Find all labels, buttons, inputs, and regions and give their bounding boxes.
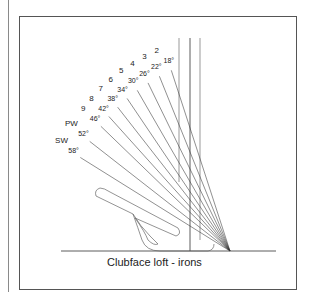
club-name-label: PW	[65, 119, 78, 128]
loft-ray-8	[109, 116, 230, 251]
loft-ray-7	[118, 107, 230, 251]
club-name-label: 4	[130, 59, 135, 68]
club-name-label: 3	[142, 52, 147, 61]
club-name-label: 6	[108, 75, 113, 84]
loft-ray-4	[148, 83, 230, 251]
loft-angle-label: 52°	[78, 130, 89, 137]
loft-angle-label: 34°	[117, 86, 128, 93]
loft-angle-label: 22°	[151, 63, 162, 70]
club-name-label: SW	[55, 136, 68, 145]
loft-ray-3	[159, 76, 230, 251]
loft-angle-label: 42°	[98, 105, 109, 112]
club-name-label: 9	[81, 104, 86, 113]
loft-ray-pw	[90, 141, 230, 251]
club-name-label: 8	[89, 94, 94, 103]
loft-ray-5	[137, 90, 230, 251]
figure-caption: Clubface loft - irons	[0, 256, 309, 268]
loft-angle-label: 18°	[164, 57, 175, 64]
loft-angle-label: 58°	[68, 147, 79, 154]
club-name-label: 2	[155, 46, 160, 55]
loft-ray-sw	[80, 157, 230, 251]
loft-angle-label: 30°	[128, 77, 139, 84]
loft-ray-9	[101, 126, 230, 251]
club-name-label: 7	[98, 84, 103, 93]
loft-angle-label: 46°	[90, 115, 101, 122]
club-head-outline	[96, 188, 215, 251]
loft-angle-label: 38°	[107, 95, 118, 102]
club-name-label: 5	[119, 66, 124, 75]
loft-ray-2	[171, 70, 230, 251]
clubface-loft-diagram: 18°222°326°430°534°638°742°846°952°PW58°…	[0, 0, 309, 292]
loft-angle-label: 26°	[139, 70, 150, 77]
